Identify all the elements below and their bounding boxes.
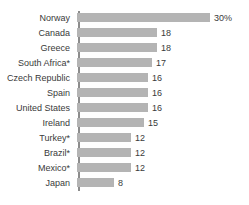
- bar: [77, 103, 148, 112]
- bar: [77, 58, 152, 67]
- bar-track: 16: [77, 100, 249, 115]
- category-label: Turkey*: [0, 133, 74, 143]
- bar: [77, 133, 131, 142]
- bar-value-label: 16: [152, 73, 162, 83]
- bar-track: 12: [77, 130, 249, 145]
- bar-row: Ireland 15: [0, 115, 249, 130]
- bar-track: 18: [77, 40, 249, 55]
- category-label: Ireland: [0, 118, 74, 128]
- category-label: Brazil*: [0, 148, 74, 158]
- bar: [77, 88, 148, 97]
- bar-row: South Africa* 17: [0, 55, 249, 70]
- bar: [77, 43, 157, 52]
- bar-track: 18: [77, 25, 249, 40]
- category-label: Canada: [0, 28, 74, 38]
- category-label: Mexico*: [0, 163, 74, 173]
- bar-row: United States 16: [0, 100, 249, 115]
- category-label: Greece: [0, 43, 74, 53]
- bar: [77, 163, 131, 172]
- bar: [77, 148, 131, 157]
- bar-value-label: 18: [161, 28, 171, 38]
- bar-value-label: 17: [156, 58, 166, 68]
- bar-track: 8: [77, 175, 249, 190]
- bar: [77, 118, 144, 127]
- bar-value-label: 15: [148, 118, 158, 128]
- bar-track: 30%: [77, 10, 249, 25]
- category-label: South Africa*: [0, 58, 74, 68]
- category-label: Norway: [0, 13, 74, 23]
- bar-row: Norway 30%: [0, 10, 249, 25]
- bar-value-label: 12: [135, 148, 145, 158]
- bar-value-label: 12: [135, 133, 145, 143]
- bar-value-label: 30%: [214, 13, 232, 23]
- bar-rows: Norway 30% Canada 18 Greece 18 South Afr…: [0, 10, 249, 190]
- bar-row: Brazil* 12: [0, 145, 249, 160]
- bar-chart: Norway 30% Canada 18 Greece 18 South Afr…: [0, 0, 249, 205]
- bar-track: 15: [77, 115, 249, 130]
- bar-row: Canada 18: [0, 25, 249, 40]
- bar-value-label: 18: [161, 43, 171, 53]
- bar-value-label: 8: [118, 178, 123, 188]
- bar: [77, 13, 210, 22]
- category-label: United States: [0, 103, 74, 113]
- bar-row: Spain 16: [0, 85, 249, 100]
- bar-track: 16: [77, 70, 249, 85]
- bar-value-label: 16: [152, 88, 162, 98]
- bar-value-label: 12: [135, 163, 145, 173]
- bar-track: 16: [77, 85, 249, 100]
- bar-track: 12: [77, 160, 249, 175]
- bar-row: Czech Republic 16: [0, 70, 249, 85]
- bar-row: Turkey* 12: [0, 130, 249, 145]
- category-label: Spain: [0, 88, 74, 98]
- bar: [77, 178, 114, 187]
- bar-row: Japan 8: [0, 175, 249, 190]
- category-label: Japan: [0, 178, 74, 188]
- category-label: Czech Republic: [0, 73, 74, 83]
- bar-row: Greece 18: [0, 40, 249, 55]
- bar: [77, 28, 157, 37]
- bar: [77, 73, 148, 82]
- bar-row: Mexico* 12: [0, 160, 249, 175]
- bar-track: 17: [77, 55, 249, 70]
- bar-value-label: 16: [152, 103, 162, 113]
- bar-track: 12: [77, 145, 249, 160]
